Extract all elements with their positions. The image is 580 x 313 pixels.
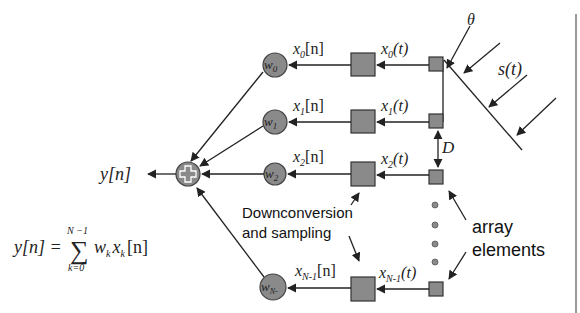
digital-signal-label-1: x1[n] (292, 97, 324, 117)
array-element-n-minus-1 (429, 282, 443, 296)
theta-label: θ (467, 11, 475, 28)
svg-text:D: D (441, 138, 455, 157)
downconverter-2 (351, 162, 375, 186)
svg-text:and sampling: and sampling (242, 224, 331, 241)
array-element-2 (429, 170, 443, 184)
downconversion-annotation: Downconversion and sampling (242, 193, 359, 261)
analog-signal-label-0: x0(t) (380, 40, 408, 60)
svg-text:elements: elements (472, 240, 545, 260)
svg-text:y[n] =: y[n] = (12, 237, 62, 257)
channel-2: w2 x2[n] x2(t) (202, 148, 443, 186)
sum-equation: y[n] = N −1 ∑ k=0 wkxk[n] (12, 225, 148, 273)
signal-label: s(t) (498, 59, 522, 80)
output-label: y[n] (98, 164, 131, 184)
beamformer-diagram: θ s(t) D w0 x0[n] x0(t) w1 x1[n] x1(t) (0, 0, 580, 313)
analog-signal-label-n-minus-1: xN-1(t) (378, 264, 416, 284)
svg-text:N −1: N −1 (66, 225, 88, 236)
downconverter-0 (351, 53, 375, 76)
digital-signal-label-2: x2[n] (292, 148, 324, 168)
ellipsis-dots (432, 202, 438, 265)
digital-signal-label-0: x0[n] (292, 40, 324, 60)
svg-text:wkxk[n]: wkxk[n] (94, 237, 148, 259)
analog-signal-label-1: x1(t) (380, 97, 408, 117)
array-element-1 (429, 114, 443, 128)
svg-text:Downconversion: Downconversion (242, 204, 353, 221)
svg-text:k=0: k=0 (68, 262, 84, 273)
spacing-indicator: D (438, 131, 455, 167)
downconverter-1 (351, 110, 375, 133)
svg-text:array: array (472, 217, 513, 237)
digital-signal-label-n-minus-1: xN-1[n] (294, 262, 336, 282)
array-element-0 (429, 57, 443, 71)
svg-text:∑: ∑ (70, 236, 89, 265)
incident-wavefront: θ s(t) (444, 11, 556, 150)
analog-signal-label-2: x2(t) (380, 150, 408, 170)
array-elements-annotation: array elements (449, 191, 545, 279)
downconverter-n-minus-1 (351, 277, 375, 301)
summer-node (176, 162, 200, 186)
